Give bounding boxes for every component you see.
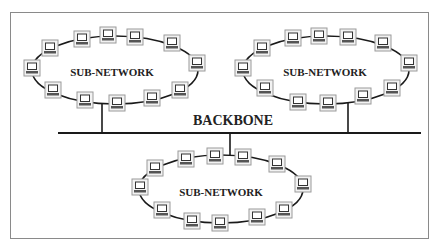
computer-node-icon bbox=[285, 30, 301, 46]
computer-node-icon bbox=[355, 88, 371, 104]
computer-node-icon bbox=[320, 95, 336, 111]
computer-node-icon bbox=[164, 35, 180, 51]
computer-node-icon bbox=[42, 40, 58, 56]
computer-node-icon bbox=[127, 29, 143, 45]
subnetwork-label: SUB-NETWORK bbox=[179, 186, 263, 198]
computer-node-icon bbox=[384, 80, 400, 96]
computer-node-icon bbox=[212, 215, 228, 231]
computer-node-icon bbox=[144, 90, 160, 106]
computer-node-icon bbox=[235, 60, 251, 76]
computer-node-icon bbox=[311, 28, 327, 44]
computer-node-icon bbox=[24, 60, 40, 76]
computer-node-icon bbox=[269, 156, 285, 172]
computer-node-icon bbox=[147, 160, 163, 176]
subnetwork-label: SUB-NETWORK bbox=[70, 66, 154, 78]
computer-node-icon bbox=[172, 82, 188, 98]
computer-node-icon bbox=[254, 40, 270, 56]
computer-node-icon bbox=[189, 55, 205, 71]
computer-node-icon bbox=[295, 176, 311, 192]
computer-node-icon bbox=[100, 27, 116, 43]
computer-node-icon bbox=[45, 82, 61, 98]
computer-node-icon bbox=[132, 179, 148, 195]
computer-node-icon bbox=[249, 209, 265, 225]
computer-node-icon bbox=[257, 80, 273, 96]
computer-node-icon bbox=[401, 55, 417, 71]
computer-node-icon bbox=[74, 31, 90, 47]
computer-node-icon bbox=[77, 92, 93, 108]
computer-node-icon bbox=[109, 95, 125, 111]
computer-node-icon bbox=[235, 149, 251, 165]
computer-node-icon bbox=[340, 29, 356, 45]
computer-node-icon bbox=[290, 94, 306, 110]
computer-node-icon bbox=[184, 213, 200, 229]
backbone-label: BACKBONE bbox=[193, 113, 273, 129]
computer-node-icon bbox=[207, 148, 223, 164]
computer-node-icon bbox=[375, 35, 391, 51]
computer-node-icon bbox=[154, 202, 170, 218]
subnetwork-label: SUB-NETWORK bbox=[283, 66, 367, 78]
computer-node-icon bbox=[276, 202, 292, 218]
computer-node-icon bbox=[178, 151, 194, 167]
